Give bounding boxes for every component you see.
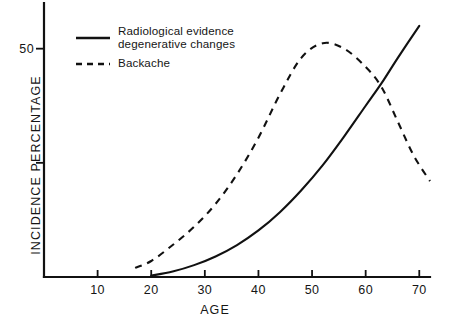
y-tick-label: 50 xyxy=(6,42,34,56)
legend-label-backache: Backache xyxy=(118,57,170,70)
x-tick-label: 30 xyxy=(197,283,212,297)
x-tick-label: 40 xyxy=(251,283,266,297)
x-axis-label: AGE xyxy=(0,303,430,317)
x-tick-label: 70 xyxy=(412,283,427,297)
x-tick-label: 10 xyxy=(90,283,105,297)
y-axis-label: INCIDENCE PERCENTAGE xyxy=(29,65,43,265)
x-tick-label: 50 xyxy=(305,283,320,297)
chart-figure: 10203040506070 50 INCIDENCE PERCENTAGE A… xyxy=(0,0,449,327)
x-tick-label: 60 xyxy=(358,283,373,297)
series-line-radiological xyxy=(151,26,419,276)
x-tick-label: 20 xyxy=(144,283,159,297)
legend-label-radiological: Radiological evidence degenerative chang… xyxy=(118,25,235,50)
